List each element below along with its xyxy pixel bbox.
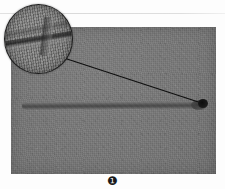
elongated-rod-specimen	[22, 101, 206, 109]
point-of-interest-marker	[198, 99, 208, 108]
figure-root: ❶	[0, 0, 225, 189]
magnified-detail-content	[5, 5, 72, 73]
magnified-detail-inset	[4, 4, 73, 74]
figure-caption: ❶	[0, 175, 225, 188]
